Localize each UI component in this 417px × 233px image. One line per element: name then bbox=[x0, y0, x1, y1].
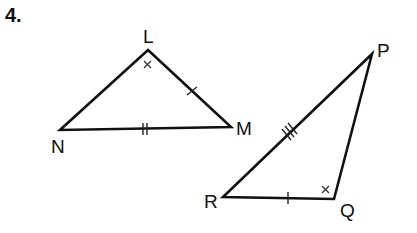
vertex-label-r: R bbox=[204, 192, 218, 211]
vertex-label-q: Q bbox=[340, 201, 355, 220]
vertex-label-n: N bbox=[51, 137, 65, 156]
vertex-label-m: M bbox=[236, 119, 252, 138]
diagram-canvas: 4. bbox=[0, 0, 417, 233]
angle-mark-l bbox=[144, 61, 151, 68]
angle-mark-q bbox=[322, 186, 329, 193]
vertex-label-l: L bbox=[143, 27, 154, 46]
vertex-label-p: P bbox=[377, 41, 390, 60]
